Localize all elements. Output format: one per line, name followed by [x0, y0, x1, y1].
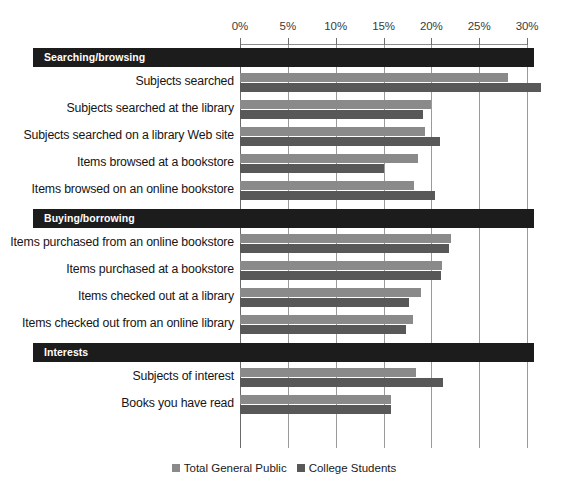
chart-row: Items browsed on an online bookstore: [0, 178, 568, 205]
section-header-row: Searching/browsing: [0, 44, 568, 70]
category-label: Books you have read: [121, 396, 234, 410]
chart-row: Subjects searched on a library Web site: [0, 124, 568, 151]
bar-college-students: [240, 83, 541, 92]
bar-chart: 0%5%10%15%20%25%30% Searching/browsingSu…: [0, 0, 568, 500]
bar-college-students: [240, 164, 384, 173]
bar-group: [240, 392, 560, 419]
category-label: Items checked out at a library: [78, 289, 234, 303]
category-label: Subjects searched: [135, 74, 234, 88]
bar-total-general-public: [240, 315, 413, 324]
bar-group: [240, 178, 560, 205]
section-header-band: Interests: [33, 343, 534, 362]
x-tick-label: 25%: [468, 20, 491, 32]
bar-group: [240, 365, 560, 392]
section-header-band: Buying/borrowing: [33, 209, 534, 228]
bar-total-general-public: [240, 288, 421, 297]
bar-group: [240, 258, 560, 285]
bar-total-general-public: [240, 261, 442, 270]
x-tick-mark: [479, 38, 480, 45]
section-header-label: Buying/borrowing: [44, 212, 135, 224]
category-label: Subjects searched on a library Web site: [23, 128, 234, 142]
chart-row: Items checked out from an online library: [0, 312, 568, 339]
legend-label: College Students: [309, 462, 397, 474]
bar-group: [240, 285, 560, 312]
x-tick-mark: [336, 38, 337, 45]
chart-rows: Searching/browsingSubjects searchedSubje…: [0, 44, 568, 419]
section-header-band: Searching/browsing: [33, 48, 534, 67]
x-axis-tick-labels: 0%5%10%15%20%25%30%: [0, 20, 568, 36]
section-header-label: Interests: [44, 346, 88, 358]
bar-total-general-public: [240, 73, 508, 82]
legend-swatch-icon: [297, 464, 305, 472]
bar-college-students: [240, 298, 409, 307]
x-tick-mark: [288, 38, 289, 45]
bar-group: [240, 312, 560, 339]
bar-college-students: [240, 244, 449, 253]
bar-college-students: [240, 378, 443, 387]
chart-legend: Total General PublicCollege Students: [0, 462, 568, 474]
bar-group: [240, 124, 560, 151]
section-header-label: Searching/browsing: [44, 51, 145, 63]
category-label: Items browsed at a bookstore: [77, 155, 234, 169]
x-tick-mark: [431, 38, 432, 45]
bar-total-general-public: [240, 100, 431, 109]
bar-college-students: [240, 191, 435, 200]
bar-college-students: [240, 325, 406, 334]
bar-college-students: [240, 271, 441, 280]
chart-row: Subjects of interest: [0, 365, 568, 392]
chart-row: Items checked out at a library: [0, 285, 568, 312]
bar-total-general-public: [240, 127, 425, 136]
bar-total-general-public: [240, 234, 451, 243]
x-tick-label: 5%: [280, 20, 296, 32]
category-label: Items checked out from an online library: [22, 316, 234, 330]
x-tick-label: 15%: [372, 20, 395, 32]
category-label: Items browsed on an online bookstore: [32, 182, 234, 196]
category-label: Subjects searched at the library: [67, 101, 234, 115]
bar-total-general-public: [240, 395, 391, 404]
bar-group: [240, 70, 560, 97]
legend-item: College Students: [297, 462, 397, 474]
category-label: Items purchased from an online bookstore: [10, 235, 234, 249]
x-tick-label: 0%: [232, 20, 248, 32]
bar-total-general-public: [240, 368, 416, 377]
bar-college-students: [240, 137, 440, 146]
bar-group: [240, 151, 560, 178]
section-header-row: Buying/borrowing: [0, 205, 568, 231]
chart-row: Items browsed at a bookstore: [0, 151, 568, 178]
chart-row: Subjects searched: [0, 70, 568, 97]
x-tick-label: 10%: [324, 20, 347, 32]
chart-row: Books you have read: [0, 392, 568, 419]
x-tick-mark: [527, 38, 528, 45]
chart-row: Items purchased from an online bookstore: [0, 231, 568, 258]
x-tick-label: 20%: [420, 20, 443, 32]
category-label: Subjects of interest: [132, 369, 234, 383]
x-tick-mark: [384, 38, 385, 45]
category-label: Items purchased at a bookstore: [66, 262, 234, 276]
section-header-row: Interests: [0, 339, 568, 365]
bar-college-students: [240, 110, 423, 119]
legend-item: Total General Public: [172, 462, 287, 474]
x-tick-label: 30%: [516, 20, 539, 32]
chart-row: Subjects searched at the library: [0, 97, 568, 124]
chart-row: Items purchased at a bookstore: [0, 258, 568, 285]
x-tick-mark: [240, 38, 241, 45]
bar-total-general-public: [240, 154, 418, 163]
bar-college-students: [240, 405, 391, 414]
bar-group: [240, 231, 560, 258]
bar-group: [240, 97, 560, 124]
legend-swatch-icon: [172, 464, 180, 472]
bar-total-general-public: [240, 181, 414, 190]
legend-label: Total General Public: [184, 462, 287, 474]
